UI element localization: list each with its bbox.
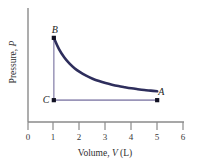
data-point-marker-a <box>155 98 159 102</box>
data-point-label-b: B <box>52 25 58 35</box>
x-axis-tick-label-0: 0 <box>21 132 35 142</box>
x-axis-title: Volume, V (L) <box>0 148 210 158</box>
x-axis-title-text: Volume, <box>78 148 112 158</box>
isotherm-curve-b-to-a <box>54 38 157 91</box>
y-axis-title-text: Pressure, <box>8 46 18 83</box>
pv-diagram-figure: B C A 0123456 Volume, V (L) Pressure, P <box>0 0 210 167</box>
x-axis-tick-label-5: 5 <box>150 132 164 142</box>
x-axis-title-units: (L) <box>118 148 133 158</box>
data-point-label-c: C <box>43 95 50 105</box>
x-axis-tick-marks <box>28 122 183 130</box>
x-axis-tick-label-6: 6 <box>176 132 190 142</box>
x-axis-tick-label-2: 2 <box>72 132 86 142</box>
x-axis-tick-label-4: 4 <box>124 132 138 142</box>
data-point-label-a: A <box>158 87 164 97</box>
x-axis-tick-label-1: 1 <box>46 132 60 142</box>
data-point-marker-c <box>52 98 56 102</box>
y-axis-title-symbol: P <box>8 41 18 47</box>
y-axis-title: Pressure, P <box>8 19 18 105</box>
x-axis-tick-label-3: 3 <box>98 132 112 142</box>
data-point-marker-b <box>52 36 56 40</box>
